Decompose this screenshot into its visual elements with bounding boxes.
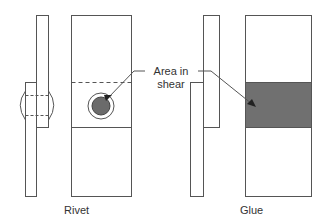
- rivet-front-view: [72, 16, 132, 197]
- area-in-shear-label-line2: shear: [157, 78, 185, 90]
- rivet-head-left-icon: [20, 91, 25, 120]
- area-in-shear-label-line1: Area in: [154, 65, 189, 77]
- glue-lower-plate-side: [191, 83, 204, 197]
- rivet-lower-plate-side: [26, 83, 37, 197]
- glue-side-view: [191, 16, 220, 197]
- shear-diagram: Area in shear Rivet Glue: [0, 0, 326, 224]
- rivet-head-right-icon: [49, 91, 54, 120]
- glue-caption: Glue: [240, 204, 263, 216]
- glue-shear-area: [246, 83, 312, 128]
- rivet-caption: Rivet: [64, 204, 89, 216]
- rivet-side-view: [20, 16, 54, 197]
- rivet-upper-plate-side: [37, 16, 49, 128]
